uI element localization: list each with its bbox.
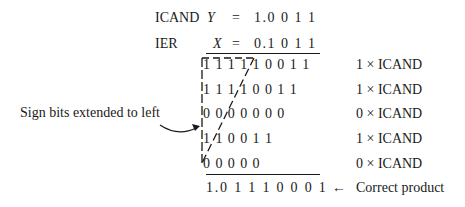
sign-extension-triangle-icon xyxy=(0,0,465,207)
arrowhead-icon xyxy=(192,124,200,131)
triangle-diagonal-edge xyxy=(202,58,254,163)
curved-arrow-icon xyxy=(160,125,196,132)
